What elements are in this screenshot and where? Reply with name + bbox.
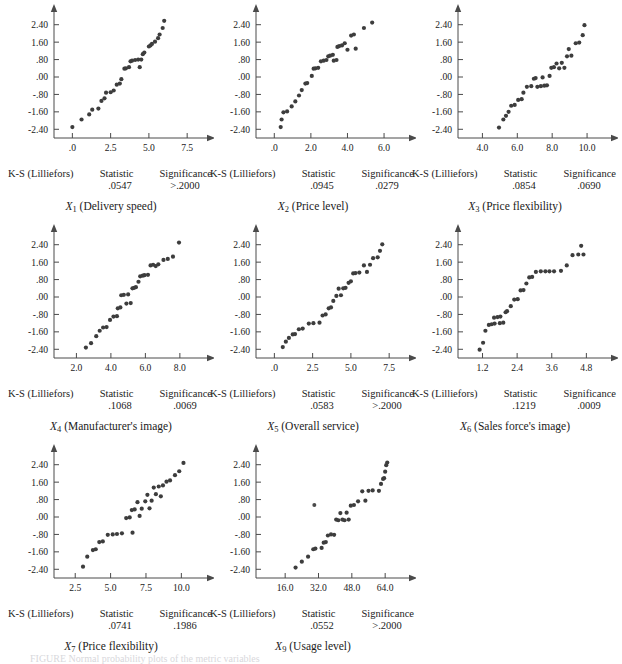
data-point bbox=[570, 253, 574, 257]
data-point bbox=[501, 321, 505, 325]
variable-symbol: X bbox=[278, 200, 285, 212]
data-point bbox=[146, 273, 150, 277]
data-point bbox=[138, 514, 142, 518]
data-point bbox=[108, 318, 112, 322]
ks-test-label: K-S (Lilliefors) bbox=[210, 388, 276, 400]
data-point bbox=[506, 110, 510, 114]
data-point bbox=[332, 533, 336, 537]
data-point bbox=[576, 252, 580, 256]
x-tick-label: .0 bbox=[69, 142, 76, 153]
data-point bbox=[336, 518, 340, 522]
statistic-value: .0547 bbox=[92, 180, 148, 192]
scatter-svg-x2: 2.401.60.80.00-.80-1.60-2.40.02.04.06.0 bbox=[210, 2, 416, 167]
x-tick-label: 6.0 bbox=[139, 362, 151, 373]
x-tick-label: 2.0 bbox=[70, 362, 82, 373]
data-point bbox=[301, 326, 305, 330]
data-point bbox=[338, 511, 342, 515]
stats-value-row: .0552>.2000 bbox=[210, 620, 416, 632]
ks-test-label: K-S (Lilliefors) bbox=[412, 388, 478, 400]
data-point bbox=[582, 23, 586, 27]
data-point bbox=[118, 305, 122, 309]
ks-test-stats-x4: K-S (Lilliefors)StatisticSignificance.10… bbox=[8, 388, 214, 412]
data-point bbox=[547, 269, 551, 273]
y-tick-label: 1.60 bbox=[233, 257, 250, 268]
data-point bbox=[569, 54, 573, 58]
data-point bbox=[293, 332, 297, 336]
significance-value: >.2000 bbox=[358, 620, 416, 632]
data-point bbox=[380, 242, 384, 246]
stats-header-row: K-S (Lilliefors)StatisticSignificance bbox=[8, 388, 214, 400]
x-tick-label: 4.0 bbox=[341, 142, 353, 153]
data-point bbox=[516, 297, 520, 301]
data-point bbox=[124, 516, 128, 520]
variable-description: (Price level) bbox=[289, 200, 348, 212]
data-point bbox=[324, 312, 328, 316]
x-tick-label: 48.0 bbox=[343, 582, 360, 593]
y-axis-arrow-x1 bbox=[51, 4, 57, 12]
variable-description: (Usage level) bbox=[286, 640, 351, 652]
variable-title-x1: X1 (Delivery speed) bbox=[8, 200, 214, 214]
figure-caption: FIGURE Normal probability plots of the m… bbox=[30, 653, 590, 664]
significance-value: .0690 bbox=[560, 180, 618, 192]
stats-value-row: .0547>.2000 bbox=[8, 180, 214, 192]
stats-header-row: K-S (Lilliefors)StatisticSignificance bbox=[8, 608, 214, 620]
data-point bbox=[581, 252, 585, 256]
data-point bbox=[331, 53, 335, 57]
data-point bbox=[513, 103, 517, 107]
probability-plot-panel-x5: 2.401.60.80.00-.80-1.60-2.40.02.55.07.5K… bbox=[210, 222, 416, 442]
data-point bbox=[525, 85, 529, 89]
y-tick-label: -2.40 bbox=[432, 124, 452, 135]
data-point bbox=[181, 461, 185, 465]
data-point bbox=[280, 117, 284, 121]
significance-label: Significance bbox=[564, 168, 616, 180]
ks-test-stats-x1: K-S (Lilliefors)StatisticSignificance.05… bbox=[8, 168, 214, 192]
data-point bbox=[498, 315, 502, 319]
scatter-svg-x4: 2.401.60.80.00-.80-1.60-2.402.04.06.08.0 bbox=[8, 222, 214, 387]
y-tick-label: .80 bbox=[440, 54, 452, 65]
data-point bbox=[534, 76, 538, 80]
statistic-value: .0854 bbox=[496, 180, 552, 192]
significance-label: Significance bbox=[160, 388, 212, 400]
data-point bbox=[168, 478, 172, 482]
data-point bbox=[161, 26, 165, 30]
data-point bbox=[577, 40, 581, 44]
y-tick-label: -2.40 bbox=[28, 564, 48, 575]
y-tick-label: .80 bbox=[36, 274, 48, 285]
data-point bbox=[158, 32, 162, 36]
data-point bbox=[104, 91, 108, 95]
y-axis-arrow-x7 bbox=[51, 444, 57, 452]
y-tick-label: 2.40 bbox=[31, 459, 48, 470]
data-point bbox=[142, 51, 146, 55]
y-tick-label: .00 bbox=[36, 71, 48, 82]
data-point bbox=[166, 257, 170, 261]
scatter-svg-x7: 2.401.60.80.00-.80-1.60-2.402.55.07.510.… bbox=[8, 442, 214, 607]
x-tick-label: 4.8 bbox=[580, 362, 592, 373]
data-point bbox=[562, 66, 566, 70]
data-point bbox=[581, 33, 585, 37]
probability-plot-panel-x1: 2.401.60.80.00-.80-1.60-2.40.02.55.07.5K… bbox=[8, 2, 214, 222]
y-tick-label: -1.60 bbox=[230, 546, 250, 557]
y-tick-label: 2.40 bbox=[31, 239, 48, 250]
data-point bbox=[362, 263, 366, 267]
data-point bbox=[90, 108, 94, 112]
data-point bbox=[307, 321, 311, 325]
x-tick-label: 7.5 bbox=[140, 582, 152, 593]
data-point bbox=[297, 93, 301, 97]
data-point bbox=[362, 26, 366, 30]
data-point bbox=[509, 304, 513, 308]
data-point bbox=[311, 321, 315, 325]
data-point bbox=[115, 532, 119, 536]
data-point bbox=[84, 345, 88, 349]
data-point bbox=[152, 485, 156, 489]
y-tick-label: .00 bbox=[238, 291, 250, 302]
data-point bbox=[157, 484, 161, 488]
data-point bbox=[365, 270, 369, 274]
normal-probability-plot-grid: 2.401.60.80.00-.80-1.60-2.40.02.55.07.5K… bbox=[0, 0, 622, 664]
data-point bbox=[345, 511, 349, 515]
plot-area-x3: 2.401.60.80.00-.80-1.60-2.404.06.08.010.… bbox=[412, 2, 618, 167]
significance-value: .0279 bbox=[358, 180, 416, 192]
plot-area-x1: 2.401.60.80.00-.80-1.60-2.40.02.55.07.5 bbox=[8, 2, 214, 167]
data-point bbox=[171, 255, 175, 259]
data-point bbox=[521, 91, 525, 95]
data-point bbox=[574, 41, 578, 45]
